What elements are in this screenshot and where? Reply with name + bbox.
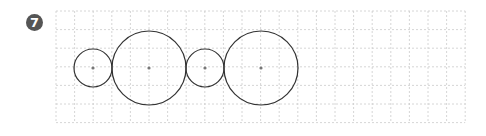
center-point <box>203 66 206 69</box>
center-point <box>259 66 262 69</box>
circle-diagram <box>0 0 486 136</box>
center-point <box>147 66 150 69</box>
circles-group <box>74 31 298 105</box>
center-point <box>91 66 94 69</box>
